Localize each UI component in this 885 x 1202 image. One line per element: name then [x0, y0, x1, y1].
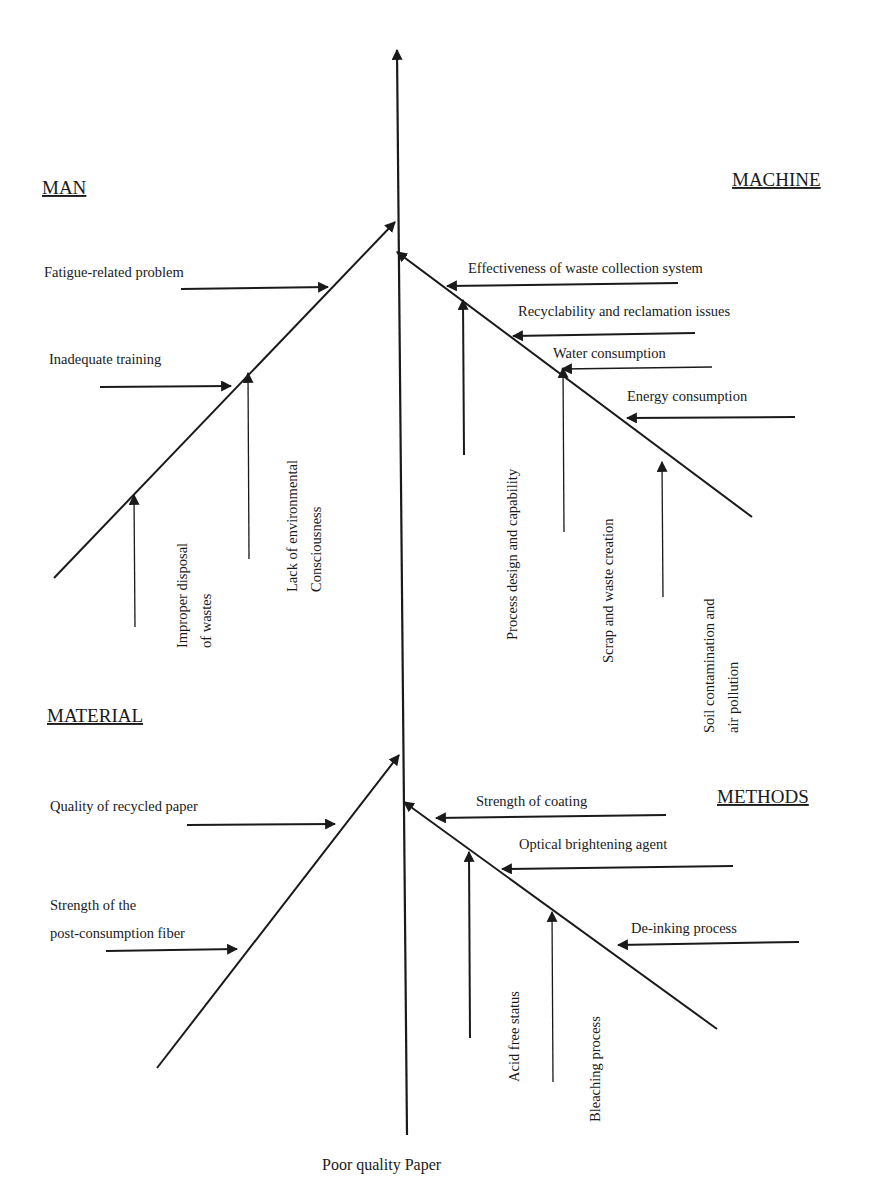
cause-machine: Recyclability and reclamation issues: [513, 303, 731, 336]
cause-label: Fatigue-related problem: [44, 264, 184, 280]
cause-arrow: [552, 912, 553, 1082]
cause-label: Quality of recycled paper: [50, 798, 198, 814]
cause-arrow: [447, 283, 678, 286]
cause-label-line2: of wastes: [198, 593, 214, 648]
cause-label: Strength of the: [50, 897, 136, 913]
cause-label: Scrap and waste creation: [600, 518, 616, 663]
cause-arrow: [187, 824, 335, 825]
fishbone-diagram: Fatigue-related problemInadequate traini…: [0, 0, 885, 1202]
cause-methods: De-inking process: [618, 920, 799, 945]
cause-label: Effectiveness of waste collection system: [468, 260, 704, 276]
cause-label: Recyclability and reclamation issues: [518, 303, 731, 319]
cause-arrow: [618, 942, 799, 945]
cause-label-line2: post-consumption fiber: [50, 925, 185, 941]
cause-arrow: [627, 417, 795, 418]
cause-label: Improper disposal: [174, 543, 190, 648]
cause-label: Energy consumption: [627, 388, 748, 404]
cause-man: Lack of environmentalConsciousness: [248, 373, 324, 592]
cause-arrow: [563, 368, 564, 532]
spine-layer: [397, 50, 407, 1135]
cause-arrow: [100, 386, 231, 387]
cause-label: Lack of environmental: [284, 460, 300, 592]
cause-methods: Strength of coating: [436, 793, 666, 818]
cause-machine: Energy consumption: [627, 388, 795, 418]
cause-man: Fatigue-related problem: [44, 264, 328, 289]
category-material: MATERIAL: [47, 705, 143, 726]
cause-arrow: [436, 815, 666, 818]
cause-machine: Scrap and waste creation: [563, 368, 616, 663]
cause-material: Quality of recycled paper: [50, 798, 335, 825]
cause-label: Process design and capability: [504, 468, 520, 640]
cause-label: Water consumption: [553, 345, 667, 361]
cause-machine: Soil contamination andair pollution: [662, 462, 741, 733]
cause-arrow: [562, 367, 712, 369]
cause-arrow: [513, 333, 695, 336]
cause-label: Inadequate training: [49, 351, 161, 367]
cause-methods: Bleaching process: [552, 912, 603, 1122]
cause-label: De-inking process: [631, 920, 737, 936]
cause-arrow: [463, 300, 464, 455]
cause-man: Improper disposalof wastes: [134, 495, 214, 648]
cause-label: Bleaching process: [587, 1016, 603, 1122]
cause-methods: Acid free status: [469, 852, 522, 1082]
cause-machine: Effectiveness of waste collection system: [447, 260, 704, 286]
cause-label-line2: air pollution: [725, 661, 741, 733]
category-man: MAN: [42, 177, 87, 198]
cause-arrow: [662, 462, 663, 597]
cause-label: Acid free status: [506, 991, 522, 1082]
category-methods: METHODS: [717, 786, 809, 807]
cause-label: Strength of coating: [476, 793, 587, 809]
spine-arrow: [397, 50, 407, 1135]
category-machine: MACHINE: [732, 169, 821, 190]
cause-arrow: [181, 287, 328, 289]
cause-machine: Water consumption: [553, 345, 712, 369]
cause-label: Soil contamination and: [701, 598, 717, 733]
effect-label: Poor quality Paper: [322, 1156, 442, 1174]
machine-bone: [397, 252, 752, 517]
cause-machine: Process design and capability: [463, 300, 520, 640]
cause-label-line2: Consciousness: [308, 506, 324, 592]
cause-material: Strength of thepost-consumption fiber: [50, 897, 237, 951]
cause-label: Optical brightening agent: [519, 836, 667, 852]
cause-arrow: [469, 852, 470, 1038]
cause-methods: Optical brightening agent: [502, 836, 733, 869]
cause-arrow: [134, 495, 135, 627]
cause-arrow: [106, 949, 237, 951]
cause-man: Inadequate training: [49, 351, 231, 387]
cause-arrow: [248, 373, 249, 559]
cause-arrow: [502, 866, 733, 869]
causes-layer: Fatigue-related problemInadequate traini…: [44, 260, 799, 1122]
